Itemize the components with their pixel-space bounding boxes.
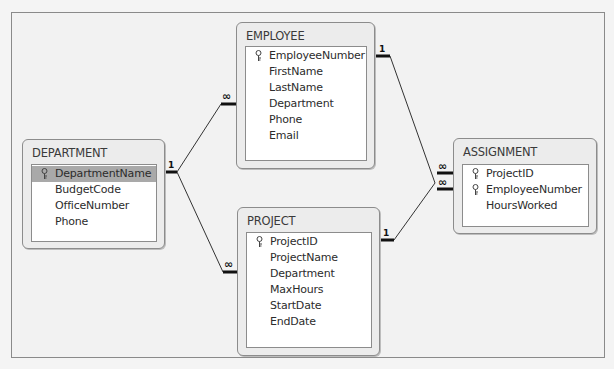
field-name: Phone	[55, 215, 88, 228]
field-row[interactable]: Phone	[32, 214, 156, 230]
field-name: ProjectName	[270, 251, 338, 264]
field-name: BudgetCode	[55, 183, 121, 196]
cardinality-one-icon: 1	[168, 160, 174, 170]
table-title: PROJECT	[247, 214, 295, 228]
relationship-line-employee-assignment[interactable]	[390, 56, 435, 183]
primary-key-icon	[471, 184, 480, 196]
primary-key-icon	[255, 236, 264, 248]
table-project[interactable]: PROJECT ProjectID ProjectName Department…	[237, 207, 380, 356]
table-title: ASSIGNMENT	[463, 145, 537, 159]
cardinality-one-icon: 1	[379, 44, 385, 54]
table-employee[interactable]: EMPLOYEE EmployeeNumber FirstName LastNa…	[236, 22, 375, 169]
cardinality-many-icon: ∞	[222, 90, 231, 103]
field-name: Department	[269, 97, 334, 110]
table-assignment[interactable]: ASSIGNMENT ProjectID EmployeeNumber Hour…	[453, 138, 597, 234]
field-row[interactable]: LastName	[246, 80, 366, 96]
relationship-line-project-assignment[interactable]	[394, 183, 435, 240]
field-row[interactable]: EmployeeNumber	[246, 48, 366, 64]
field-name: LastName	[269, 81, 323, 94]
field-row[interactable]: FirstName	[246, 64, 366, 80]
relationship-line-department-employee[interactable]	[177, 104, 221, 172]
field-list: EmployeeNumber FirstName LastName Depart…	[245, 46, 367, 161]
field-name: Phone	[269, 113, 302, 126]
field-row[interactable]: StartDate	[247, 298, 371, 314]
field-name: HoursWorked	[486, 199, 557, 212]
field-name: StartDate	[270, 299, 321, 312]
field-row[interactable]: ProjectName	[247, 250, 371, 266]
field-row[interactable]: Phone	[246, 112, 366, 128]
field-name: DepartmentName	[55, 167, 151, 180]
primary-key-icon	[40, 168, 49, 180]
field-row[interactable]: ProjectID	[463, 166, 588, 182]
field-name: EndDate	[270, 315, 316, 328]
relationship-line-department-project[interactable]	[177, 172, 223, 272]
field-name: OfficeNumber	[55, 199, 129, 212]
field-row[interactable]: DepartmentName	[32, 166, 156, 182]
table-department[interactable]: DEPARTMENT DepartmentName BudgetCode Off…	[22, 139, 165, 249]
field-name: Email	[269, 129, 299, 142]
field-row[interactable]: EmployeeNumber	[463, 182, 588, 198]
field-list: ProjectID EmployeeNumber HoursWorked	[462, 164, 589, 227]
field-list: DepartmentName BudgetCode OfficeNumber P…	[31, 164, 157, 242]
cardinality-many-icon: ∞	[438, 176, 447, 189]
field-row[interactable]: Email	[246, 128, 366, 144]
primary-key-icon	[471, 168, 480, 180]
table-title: DEPARTMENT	[32, 146, 107, 160]
field-name: EmployeeNumber	[486, 183, 582, 196]
cardinality-one-icon: 1	[383, 228, 389, 238]
field-name: ProjectID	[486, 167, 534, 180]
field-name: MaxHours	[270, 283, 323, 296]
field-row[interactable]: HoursWorked	[463, 198, 588, 214]
table-title: EMPLOYEE	[246, 29, 305, 43]
field-name: Department	[270, 267, 335, 280]
field-row[interactable]: ProjectID	[247, 234, 371, 250]
field-list: ProjectID ProjectName Department MaxHour…	[246, 232, 372, 348]
field-name: ProjectID	[270, 235, 318, 248]
cardinality-many-icon: ∞	[224, 258, 233, 271]
field-row[interactable]: OfficeNumber	[32, 198, 156, 214]
cardinality-many-icon: ∞	[438, 160, 447, 173]
field-name: EmployeeNumber	[269, 49, 365, 62]
field-row[interactable]: Department	[247, 266, 371, 282]
field-row[interactable]: MaxHours	[247, 282, 371, 298]
field-row[interactable]: BudgetCode	[32, 182, 156, 198]
field-row[interactable]: EndDate	[247, 314, 371, 330]
primary-key-icon	[254, 50, 263, 62]
field-name: FirstName	[269, 65, 323, 78]
field-row[interactable]: Department	[246, 96, 366, 112]
